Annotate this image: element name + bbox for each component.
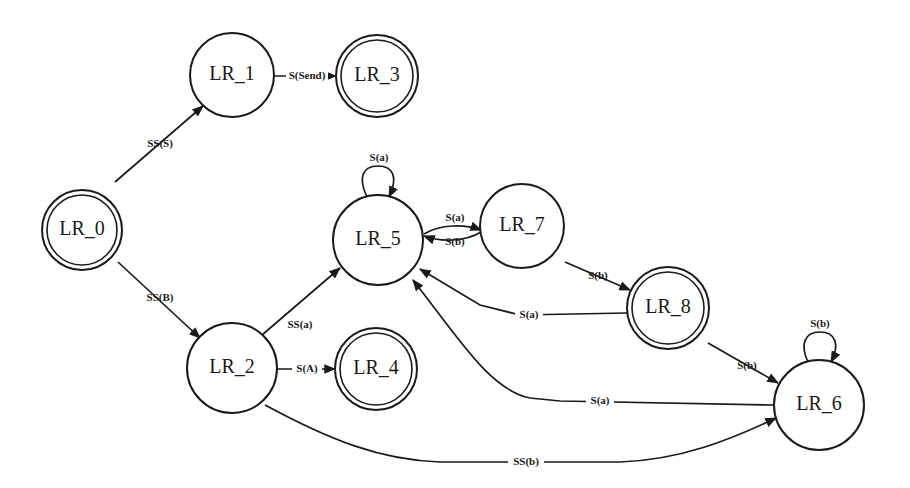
state-lr-8: LR_8 [627,267,709,349]
edge-label-lr8-lr6: S(b) [737,359,757,372]
edge-lr5-lr7 [424,226,481,234]
edge-label-lr7-lr8: S(b) [588,269,608,282]
state-lr-0: LR_0 [42,190,122,270]
edge-label-lr7-lr5: S(b) [445,235,465,248]
edge-label-lr6-lr5: S(a) [591,394,610,407]
edge-label-lr2-lr6: SS(b) [513,455,539,468]
state-label: LR_4 [353,356,399,378]
edge-lr6-loop [804,332,836,362]
state-label: LR_8 [645,295,691,317]
state-label: LR_7 [499,213,545,235]
edge-label-lr5-loop: S(a) [370,151,389,164]
edge-label-lr2-lr5: SS(a) [287,318,312,331]
edge-label-lr2-lr4: S(A) [296,362,318,375]
state-diagram: SS(S) SS(B) S(Send) SS(a) S(A) SS(b) S(a… [0,0,910,488]
edge-lr5-loop [362,166,393,197]
edge-lr6-lr5 [413,280,774,405]
state-label: LR_0 [59,217,105,239]
state-lr-7: LR_7 [480,184,564,268]
edge-label-lr0-lr1: SS(S) [147,137,173,150]
edge-label-lr5-lr7: S(a) [446,211,465,224]
state-lr-4: LR_4 [335,328,417,410]
state-label: LR_1 [209,62,255,84]
edge-label-lr0-lr2: SS(B) [147,291,174,304]
edge-lr2-lr6 [265,405,776,462]
edge-label-lr1-lr3: S(Send) [289,69,326,82]
state-label: LR_3 [354,63,400,85]
state-label: LR_5 [355,227,401,249]
state-lr-3: LR_3 [336,35,418,117]
state-lr-1: LR_1 [190,33,274,117]
state-lr-2: LR_2 [187,323,277,413]
state-label: LR_2 [209,355,255,377]
diagram-svg: SS(S) SS(B) S(Send) SS(a) S(A) SS(b) S(a… [0,0,910,488]
state-lr-5: LR_5 [333,195,423,285]
edge-label-lr6-loop: S(b) [810,317,830,330]
edge-label-lr8-lr5: S(a) [520,308,539,321]
state-label: LR_6 [796,392,842,414]
state-lr-6: LR_6 [774,360,864,450]
